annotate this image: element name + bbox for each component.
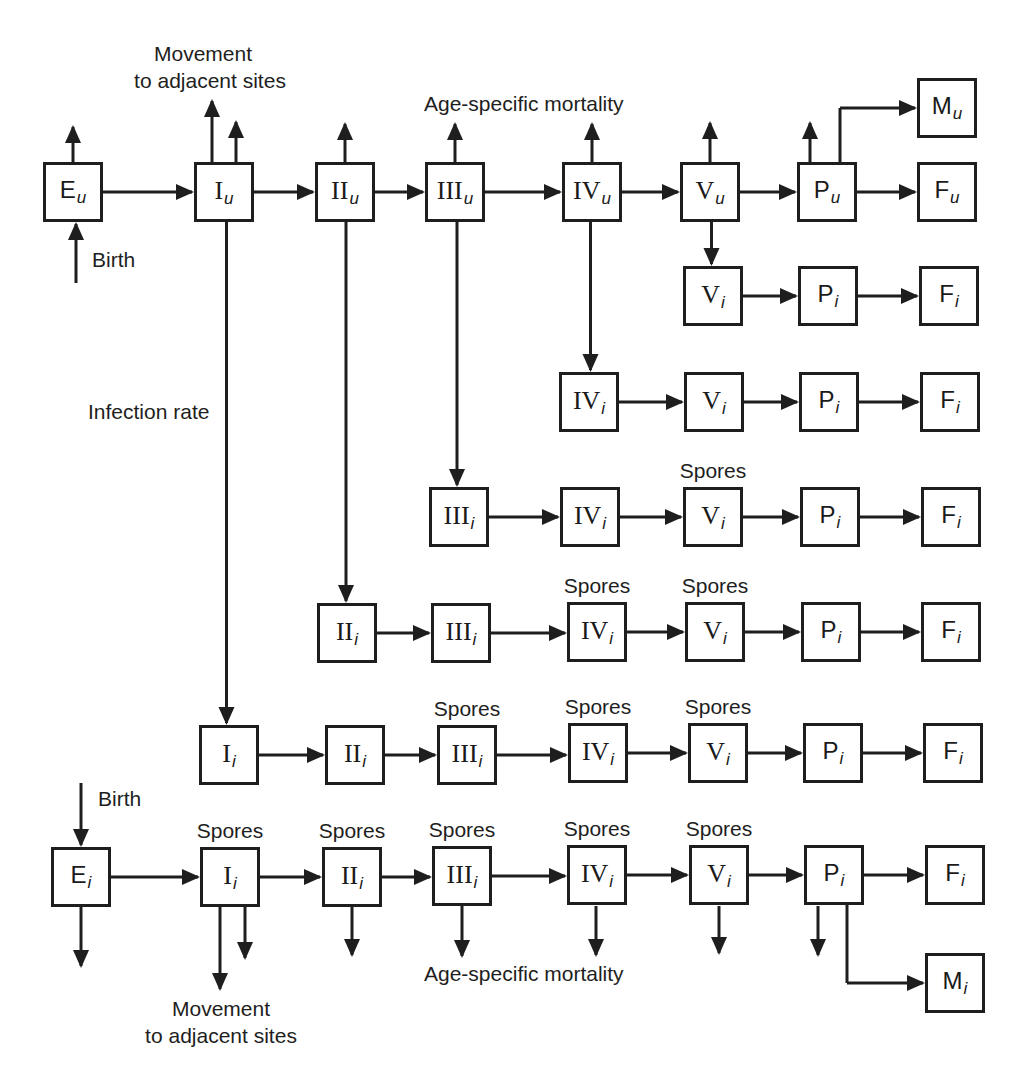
compartment-label: Iu (214, 178, 233, 207)
compartment-r6F: Fi (923, 723, 983, 783)
arrowhead-icon (903, 624, 921, 640)
compartment-label: Vu (695, 178, 724, 207)
arrowhead-icon (901, 288, 919, 304)
compartment-r6II: IIi (325, 725, 385, 785)
compartment-r5II: IIi (317, 603, 377, 663)
mortality-label-top: Age-specific mortality (424, 93, 624, 115)
arrowhead-icon (228, 120, 244, 138)
compartment-IIIu: IIIu (425, 162, 485, 222)
arrowhead-icon (670, 745, 688, 761)
arrowhead-icon (782, 509, 800, 525)
compartment-r7F: Fi (925, 845, 985, 905)
arrowhead-icon (204, 99, 220, 117)
spores-label: Spores (197, 820, 264, 842)
arrowhead-icon (785, 745, 803, 761)
compartment-r3IV: IVi (559, 372, 619, 432)
spores-label: Spores (685, 696, 752, 718)
compartment-label: Fi (940, 388, 959, 416)
compartment-Mi: Mi (925, 953, 985, 1013)
compartment-r7II: IIi (322, 847, 382, 907)
compartment-label: IIu (331, 178, 359, 207)
compartment-r4IV: IVi (560, 487, 620, 547)
compartment-label: IIIi (447, 862, 478, 891)
movement-label-bottom-line2: to adjacent sites (145, 1025, 297, 1047)
spores-label: Spores (319, 820, 386, 842)
arrowhead-icon (237, 942, 253, 960)
arrowhead-icon (780, 288, 798, 304)
compartment-label: Mi (943, 969, 968, 997)
arrowhead-icon (783, 624, 801, 640)
compartment-Vu: Vu (680, 162, 740, 222)
arrowhead-icon (219, 707, 235, 725)
compartment-r2V: Vi (683, 266, 743, 326)
compartment-Pu: Pu (797, 162, 857, 222)
compartment-label: Vi (707, 861, 731, 890)
compartment-label: IIi (344, 741, 366, 770)
arrowhead-icon (65, 125, 81, 143)
compartment-label: IIIi (452, 741, 483, 770)
arrowhead-icon (550, 747, 568, 763)
compartment-r3V: Vi (684, 372, 744, 432)
compartment-label: Fi (943, 739, 962, 767)
arrowhead-icon (666, 394, 684, 410)
birth-label-top: Birth (92, 249, 135, 271)
arrowhead-icon (73, 829, 89, 847)
compartment-Eu: Eu (43, 162, 103, 222)
compartment-label: IIIi (444, 503, 475, 532)
arrowhead-icon (407, 184, 425, 200)
arrowhead-icon (454, 940, 470, 958)
compartment-r6III: IIIi (437, 725, 497, 785)
compartment-Fu: Fu (917, 162, 977, 222)
compartment-r7P: Pi (804, 845, 864, 905)
compartment-label: IIi (336, 619, 358, 648)
compartment-r5IV: IVi (567, 602, 627, 662)
arrowhead-icon (344, 939, 360, 957)
arrowhead-icon (781, 394, 799, 410)
spores-label: Spores (680, 460, 747, 482)
compartment-r5P: Pi (801, 602, 861, 662)
compartment-label: Pi (824, 861, 845, 889)
arrowhead-icon (544, 184, 562, 200)
compartment-r7V: Vi (689, 845, 749, 905)
arrowhead-icon (899, 100, 917, 116)
arrowhead-icon (907, 975, 925, 991)
arrowhead-icon (549, 868, 567, 884)
compartment-IVu: IVu (562, 162, 622, 222)
compartment-label: IIIu (437, 178, 473, 207)
compartment-label: Vi (706, 739, 730, 768)
compartment-label: Eu (60, 178, 86, 206)
compartment-r3P: Pi (799, 372, 859, 432)
spores-label: Spores (565, 696, 632, 718)
arrowhead-icon (665, 509, 683, 525)
arrowhead-icon (810, 939, 826, 957)
spores-label: Spores (434, 698, 501, 720)
compartment-label: Vi (703, 618, 727, 647)
arrowhead-icon (662, 184, 680, 200)
compartment-r6IV: IVi (568, 723, 628, 783)
compartment-label: Fi (939, 282, 958, 310)
compartment-r5V: Vi (685, 602, 745, 662)
spores-label: Spores (564, 818, 631, 840)
arrowhead-icon (297, 184, 315, 200)
arrowhead-icon (176, 184, 194, 200)
arrowhead-icon (903, 509, 921, 525)
spores-label: Spores (429, 819, 496, 841)
compartment-r3F: Fi (920, 372, 980, 432)
compartment-r2P: Pi (798, 266, 858, 326)
arrowhead-icon (449, 469, 465, 487)
arrowhead-icon (337, 122, 353, 140)
compartment-label: Ei (71, 863, 92, 891)
arrowhead-icon (212, 973, 228, 991)
arrowhead-icon (671, 867, 689, 883)
compartment-label: Fi (941, 503, 960, 531)
arrowhead-icon (73, 950, 89, 968)
compartment-r6P: Pi (803, 723, 863, 783)
movement-label-bottom-line1: Movement (172, 998, 270, 1020)
arrowhead-icon (447, 122, 463, 140)
compartment-label: Vi (701, 503, 725, 532)
compartment-r7III: IIIi (432, 846, 492, 906)
arrowhead-icon (419, 747, 437, 763)
compartment-Ei: Ei (51, 847, 111, 907)
spores-label: Spores (564, 575, 631, 597)
compartment-label: Fi (941, 618, 960, 646)
